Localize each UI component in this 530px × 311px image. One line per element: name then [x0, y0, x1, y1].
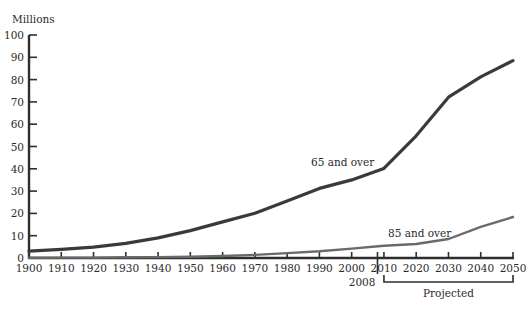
y-tick-label: 100 — [4, 29, 24, 41]
series-line-65-and-over — [29, 61, 513, 252]
x-tick-label: 2020 — [403, 262, 430, 274]
x-tick-label: 2040 — [467, 262, 494, 274]
x-axis: 1900191019201930194019501960197019801990… — [16, 252, 527, 274]
x-tick-label: 1950 — [177, 262, 204, 274]
x-tick-label: 1910 — [48, 262, 75, 274]
marker-2008-label: 2008 — [349, 276, 376, 288]
x-tick-label: 2000 — [338, 262, 365, 274]
series-label: 85 and over — [388, 227, 452, 239]
y-axis: 0102030405060708090100 — [4, 29, 37, 264]
series-label: 65 and over — [311, 156, 375, 168]
y-tick-label: 70 — [11, 96, 24, 108]
projected-label: Projected — [423, 287, 474, 299]
y-tick-label: 20 — [11, 207, 24, 219]
projected-bracket — [384, 275, 513, 282]
y-tick-label: 60 — [11, 118, 24, 130]
x-tick-label: 1980 — [274, 262, 301, 274]
y-tick-label: 90 — [11, 51, 24, 63]
y-tick-label: 10 — [11, 230, 24, 242]
population-line-chart: Millions 0102030405060708090100 19001910… — [0, 0, 530, 311]
y-tick-label: 50 — [11, 141, 24, 153]
x-tick-label: 2010 — [371, 262, 398, 274]
y-axis-title: Millions — [12, 13, 55, 25]
x-tick-label: 1990 — [306, 262, 333, 274]
y-tick-label: 80 — [11, 74, 24, 86]
x-tick-label: 1940 — [145, 262, 172, 274]
x-tick-label: 2050 — [500, 262, 527, 274]
x-tick-label: 1960 — [209, 262, 236, 274]
y-tick-label: 40 — [11, 163, 24, 175]
x-tick-label: 1930 — [112, 262, 139, 274]
y-tick-label: 30 — [11, 185, 24, 197]
x-tick-label: 1900 — [16, 262, 43, 274]
x-tick-label: 1920 — [80, 262, 107, 274]
x-tick-label: 2030 — [435, 262, 462, 274]
x-tick-label: 1970 — [241, 262, 268, 274]
